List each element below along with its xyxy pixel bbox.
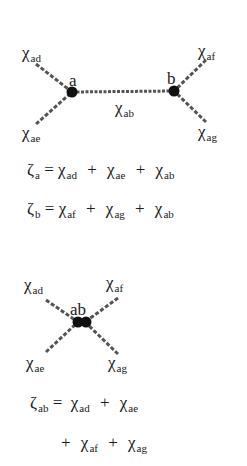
edge-label-ag: χag xyxy=(198,123,217,143)
equation-zeta-a: ζa = χad + χae + χab xyxy=(27,161,174,181)
edge-label-ad: χad xyxy=(22,44,41,64)
edge-label-ab: χab xyxy=(115,99,134,119)
node-b-label: b xyxy=(167,70,176,87)
node-a-label: a xyxy=(69,72,77,89)
edge2-ag xyxy=(85,322,118,354)
edge2-label-af: χaf xyxy=(106,274,123,294)
edge-ae xyxy=(36,92,72,124)
node-ab-label: ab xyxy=(70,301,86,318)
edge2-label-ad: χad xyxy=(24,276,43,296)
edge2-ae xyxy=(46,322,78,352)
equation-zeta-ab-line1: ζab = χad + χae xyxy=(30,394,138,414)
edge-ad xyxy=(36,64,72,92)
edge-label-ae: χae xyxy=(22,124,40,144)
edge-af xyxy=(174,60,206,91)
edge2-label-ae: χae xyxy=(26,354,44,374)
edge-ab-wavy xyxy=(72,91,174,92)
edge-ag xyxy=(174,91,206,122)
edge-label-af: χaf xyxy=(198,42,215,62)
equation-zeta-b: ζb = χaf + χag + χab xyxy=(27,200,174,220)
equation-zeta-ab-line2: + χaf + χag xyxy=(55,434,147,454)
edge2-label-ag: χag xyxy=(108,354,127,374)
